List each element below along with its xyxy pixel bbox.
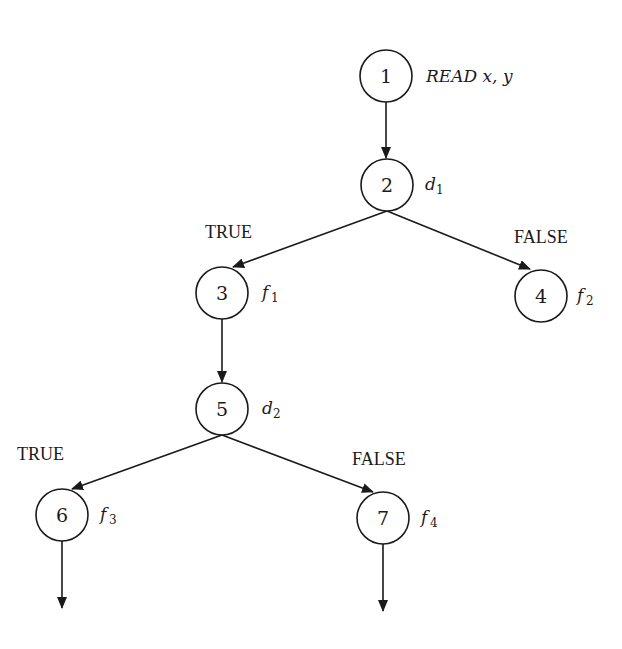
edge-5-6 [72,435,222,489]
branch-label-d2-false: FALSE [352,449,406,469]
node-2: 2 d 1 [361,159,444,211]
node-6-annotation: f [98,504,109,524]
control-flow-diagram: TRUE FALSE TRUE FALSE 1 READ x, y 2 d 1 … [0,0,622,649]
node-4-annotation-sub: 2 [586,294,594,308]
edge-2-3 [233,211,387,267]
node-1-label: 1 [380,65,392,87]
branch-label-d2-true: TRUE [17,444,64,464]
node-6: 6 f 3 [36,489,117,541]
branch-label-d1-false: FALSE [514,227,568,247]
node-7-annotation: f [419,507,430,527]
node-4-label: 4 [535,285,547,307]
node-5: 5 d 2 [196,383,281,435]
node-2-annotation-sub: 1 [436,183,444,197]
node-3-annotation: f [260,282,271,302]
node-3: 3 f 1 [196,267,279,319]
node-4: 4 f 2 [515,270,594,322]
node-5-annotation: d [262,398,273,418]
node-2-annotation: d [425,174,436,194]
edge-5-7 [222,435,373,492]
node-7: 7 f 4 [357,492,438,544]
node-2-label: 2 [381,174,393,196]
node-3-label: 3 [216,282,228,304]
edge-2-4 [387,211,530,269]
node-3-annotation-sub: 1 [271,291,279,305]
node-5-annotation-sub: 2 [273,407,281,421]
node-4-annotation: f [575,285,586,305]
node-5-label: 5 [216,398,228,420]
branch-label-d1-true: TRUE [205,222,252,242]
node-6-label: 6 [56,504,68,526]
node-1-annotation: READ x, y [425,66,513,86]
node-7-annotation-sub: 4 [430,516,438,530]
node-1: 1 READ x, y [360,50,513,102]
node-6-annotation-sub: 3 [109,513,117,527]
node-7-label: 7 [377,507,389,529]
